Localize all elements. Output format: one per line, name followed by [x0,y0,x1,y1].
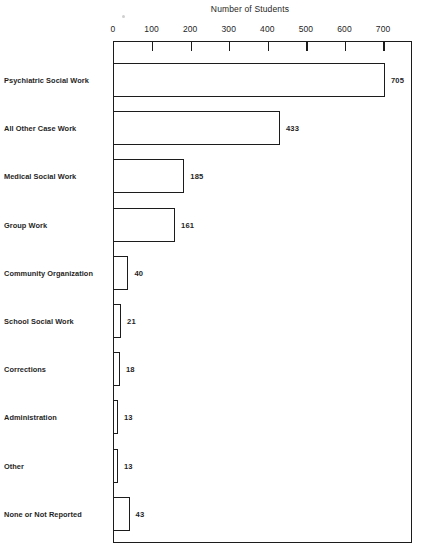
bar-value-label-2: 185 [190,172,203,181]
category-axis-labels: Psychiatric Social WorkAll Other Case Wo… [0,41,110,543]
bar-5 [113,304,121,338]
bar-2 [113,159,184,193]
x-tick-label-700: 700 [376,24,390,34]
scan-artifact-speck [122,15,125,18]
category-label-0: Psychiatric Social Work [4,76,107,85]
bar-8 [113,449,118,483]
bar-value-label-8: 13 [124,461,133,470]
bar-chart: Number of Students 010020030040050060070… [0,0,427,552]
x-axis-tick-labels: 0100200300400500600700 [0,24,427,36]
category-label-3: Group Work [4,220,107,229]
x-tick-label-400: 400 [260,24,274,34]
bar-value-label-1: 433 [286,124,299,133]
x-tick-label-500: 500 [299,24,313,34]
bar-3 [113,208,175,242]
x-tick-label-200: 200 [183,24,197,34]
bar-9 [113,497,130,531]
category-label-1: All Other Case Work [4,124,107,133]
bar-value-label-6: 18 [126,365,135,374]
category-label-8: Other [4,461,107,470]
bar-4 [113,256,128,290]
chart-title: Number of Students [170,4,330,14]
bar-value-label-4: 40 [134,268,143,277]
bar-value-label-5: 21 [127,317,136,326]
bar-value-label-9: 43 [136,509,145,518]
category-label-9: None or Not Reported [4,509,107,518]
bars-layer: 705433185161402118131343 [113,41,412,543]
bar-1 [113,111,280,145]
x-tick-label-300: 300 [221,24,235,34]
x-tick-label-100: 100 [144,24,158,34]
bar-6 [113,352,120,386]
category-label-5: School Social Work [4,317,107,326]
x-tick-label-0: 0 [111,24,116,34]
bar-7 [113,400,118,434]
category-label-4: Community Organization [4,268,107,277]
bar-value-label-7: 13 [124,413,133,422]
bar-0 [113,63,385,97]
category-label-7: Administration [4,413,107,422]
bar-value-label-0: 705 [391,76,404,85]
bar-value-label-3: 161 [181,220,194,229]
category-label-6: Corrections [4,365,107,374]
x-tick-label-600: 600 [337,24,351,34]
category-label-2: Medical Social Work [4,172,107,181]
